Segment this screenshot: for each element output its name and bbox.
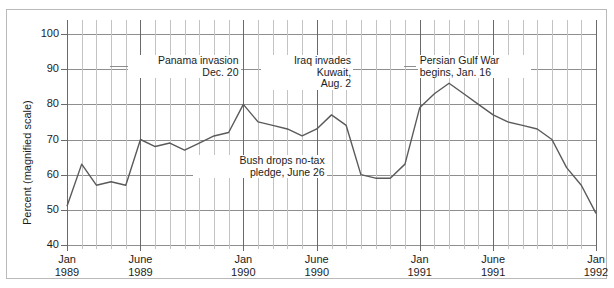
x-tick-year: 1991 xyxy=(390,266,450,279)
annotation-notax: Bush drops no-taxpledge, June 26 xyxy=(193,155,326,178)
y-tick-label-100: 100 xyxy=(15,28,59,39)
chart-frame: 100908070605040 Percent (magnified scale… xyxy=(6,9,607,279)
y-tick-label-90: 90 xyxy=(15,63,59,74)
x-tick-month: Jan xyxy=(213,253,273,266)
annotation-panama: Panama invasionDec. 20 xyxy=(128,55,241,78)
annotation-leader-gulfwar xyxy=(404,66,416,67)
annotation-panama-line1: Panama invasion xyxy=(130,55,239,67)
x-tick-year: 1989 xyxy=(37,266,97,279)
x-tick-month: June xyxy=(110,253,170,266)
annotation-notax-line2: pledge, June 26 xyxy=(195,167,324,179)
y-tick-label-40: 40 xyxy=(15,239,59,250)
x-tick-month: Jan xyxy=(37,253,97,266)
plot-area: 100908070605040 Percent (magnified scale… xyxy=(67,34,596,245)
x-tick-label-June-1991: June1991 xyxy=(463,253,523,279)
annotation-iraq: Iraq invadesKuwait,Aug. 2 xyxy=(261,55,353,90)
x-tick-label-Jan-1991: Jan1991 xyxy=(390,253,450,279)
annotation-panama-line2: Dec. 20 xyxy=(130,67,239,79)
x-tick-year: 1990 xyxy=(213,266,273,279)
x-tick-year: 1989 xyxy=(110,266,170,279)
annotation-gulfwar-line2: begins, Jan. 16 xyxy=(420,67,529,79)
x-tick-label-June-1990: June1990 xyxy=(287,253,347,279)
annotation-iraq-line1: Iraq invades xyxy=(263,55,351,67)
x-tick-year: 1990 xyxy=(287,266,347,279)
y-axis-title: Percent (magnified scale) xyxy=(21,100,33,225)
annotation-leader-panama xyxy=(110,66,128,67)
gridline-x-36 xyxy=(596,20,597,251)
x-tick-month: June xyxy=(463,253,523,266)
approval-line xyxy=(67,83,596,213)
chart-figure: 100908070605040 Percent (magnified scale… xyxy=(0,0,614,288)
annotation-iraq-line3: Aug. 2 xyxy=(263,78,351,90)
x-tick-month: Jan xyxy=(390,253,450,266)
x-tick-month: June xyxy=(287,253,347,266)
cutoff-headline xyxy=(150,0,450,3)
x-tick-month: Jan xyxy=(566,253,614,266)
x-axis-tick-labels: Jan1989June1989Jan1990June1990Jan1991Jun… xyxy=(67,253,596,288)
annotation-gulfwar: Persian Gulf Warbegins, Jan. 16 xyxy=(418,55,531,78)
x-tick-year: 1991 xyxy=(463,266,523,279)
annotation-gulfwar-line1: Persian Gulf War xyxy=(420,55,529,67)
x-tick-label-Jan-1989: Jan1989 xyxy=(37,253,97,279)
x-tick-label-Jan-1990: Jan1990 xyxy=(213,253,273,279)
annotation-notax-line1: Bush drops no-tax xyxy=(195,155,324,167)
x-tick-label-Jan-1992: Jan1992 xyxy=(566,253,614,279)
x-tick-label-June-1989: June1989 xyxy=(110,253,170,279)
x-tick-year: 1992 xyxy=(566,266,614,279)
